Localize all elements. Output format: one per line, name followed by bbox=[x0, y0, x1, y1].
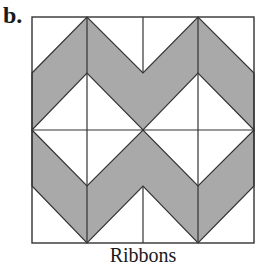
figure-caption: Ribbons bbox=[0, 244, 264, 267]
quilt-block-diagram bbox=[0, 0, 264, 268]
